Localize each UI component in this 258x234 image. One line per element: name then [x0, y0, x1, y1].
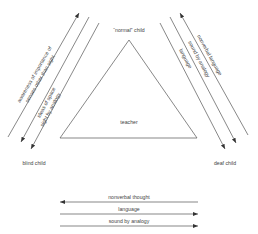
left-arrow-sight-by-analogy: [31, 23, 99, 149]
node-teacher: teacher: [120, 119, 138, 125]
node-deaf-child: deaf child: [214, 160, 236, 166]
bottom-label-nonverbal-thought: nonverbal thought: [108, 194, 150, 200]
node-blind-child: blind child: [22, 160, 45, 166]
diagram-canvas: awareness of importance of senses other …: [0, 0, 258, 234]
node-normal-child: “normal” child: [113, 27, 145, 33]
bottom-label-sound-by-analogy: sound by analogy: [109, 218, 150, 224]
right-arrow-nonverbal-language: [180, 13, 248, 135]
bottom-label-language: language: [118, 206, 139, 212]
right-label-language: language: [178, 48, 193, 70]
